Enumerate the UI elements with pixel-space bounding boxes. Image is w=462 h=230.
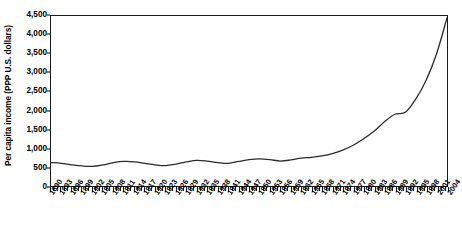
y-axis-tick-label: 2,000	[27, 106, 48, 114]
y-axis-tick-label: 3,500	[27, 49, 48, 57]
y-axis-tick-label: 500	[33, 164, 47, 172]
y-axis-tick-label: 4,000	[27, 30, 48, 38]
plot-area	[50, 15, 448, 187]
y-axis-tick-label: 2,500	[27, 87, 48, 95]
y-axis-tick-labels: 05001,0001,5002,0002,5003,0003,5004,0004…	[14, 0, 50, 195]
y-axis-tick-label: 1,500	[27, 126, 48, 134]
data-line-svg	[51, 16, 447, 186]
y-axis-title-text: Per capita income (PPP U.S. dollars)	[3, 25, 13, 166]
y-axis-tick-label: 1,000	[27, 145, 48, 153]
y-axis-tick-label: 3,000	[27, 68, 48, 76]
series-line-per-capita-income	[51, 18, 447, 167]
y-axis-tick-label: 4,500	[27, 11, 48, 19]
x-axis-tick-labels: 1890189318961899190219051908191119141917…	[50, 192, 448, 230]
